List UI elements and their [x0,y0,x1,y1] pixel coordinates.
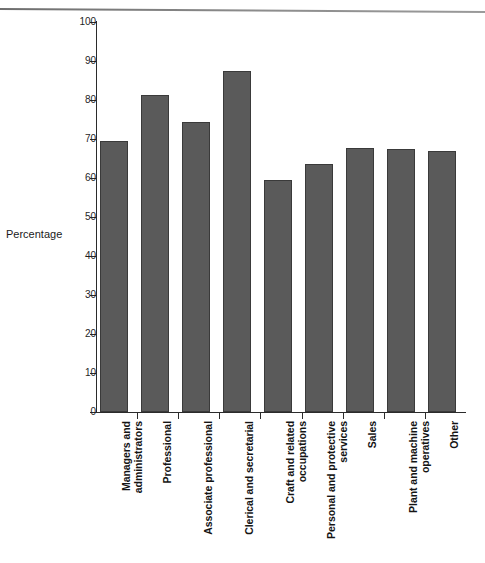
bar [264,180,292,412]
y-tick-label: 40 [70,251,96,261]
bar [141,95,169,412]
y-tick-label-wrap: 30 [56,295,96,296]
bar [223,71,251,412]
x-tick-mark [302,413,303,419]
x-tick-mark [425,413,426,419]
y-tick-label: 50 [70,212,96,222]
y-tick-label: 90 [70,56,96,66]
x-tick-mark [219,413,220,419]
bar [182,122,210,412]
x-tick-mark [384,413,385,419]
y-tick-label: 30 [70,290,96,300]
y-tick-label-wrap: 50 [56,217,96,218]
y-tick-label: 60 [70,173,96,183]
y-tick-label-wrap: 70 [56,139,96,140]
y-tick-label: 10 [70,368,96,378]
y-tick-label: 100 [70,17,96,27]
y-tick-label: 0 [70,407,96,417]
y-tick-label-wrap: 90 [56,61,96,62]
y-tick-label: 70 [70,134,96,144]
x-category-label: Associate professional [202,421,214,551]
y-tick-label-wrap: 100 [56,22,96,23]
y-tick-label-wrap: 20 [56,334,96,335]
y-tick-label-wrap: 40 [56,256,96,257]
bar [100,141,128,412]
y-axis-line [96,21,97,413]
bar [346,148,374,412]
x-tick-mark [260,413,261,419]
x-axis-line [96,412,466,413]
y-tick-label: 80 [70,95,96,105]
y-tick-label: 20 [70,329,96,339]
bar [428,151,456,412]
y-tick-label-wrap: 80 [56,100,96,101]
bar [387,149,415,412]
x-category-label: Plant and machine operatives [407,421,431,551]
bar-chart: Percentage 1009080706050403020100 Manage… [0,0,485,563]
x-category-label: Clerical and secretarial [243,421,255,551]
x-tick-mark [178,413,179,419]
x-category-label: Personal and protective services [325,421,349,551]
x-category-label: Sales [366,421,378,551]
x-category-label: Craft and related occupations [284,421,308,551]
y-axis-title: Percentage [6,228,62,241]
y-tick-label-wrap: 0 [56,412,96,413]
y-tick-label-wrap: 10 [56,373,96,374]
x-category-label: Managers and administrators [120,421,144,551]
x-tick-mark [343,413,344,419]
x-tick-mark [137,413,138,419]
bar [305,164,333,412]
x-category-label: Other [448,421,460,551]
figure-caption [0,552,485,563]
y-tick-label-wrap: 60 [56,178,96,179]
x-category-label: Professional [161,421,173,551]
